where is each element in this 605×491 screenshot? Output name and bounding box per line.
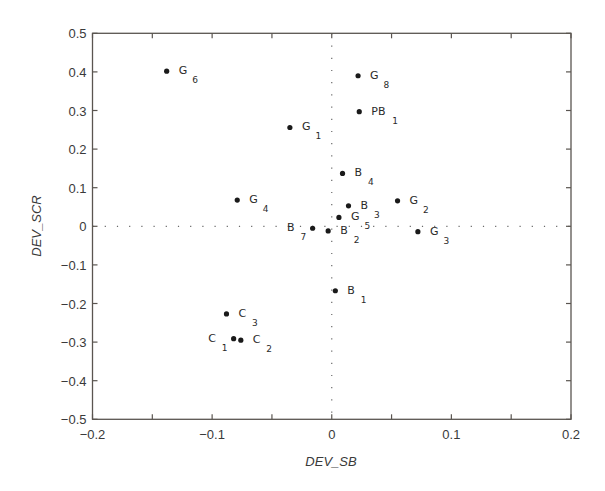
- point-marker: [164, 69, 169, 74]
- y-tick-label: −0.1: [61, 258, 87, 273]
- point-label-subscript: 6: [192, 75, 198, 85]
- y-tick-label: −0.3: [61, 335, 87, 350]
- point-marker: [238, 338, 243, 343]
- point-label-subscript: 4: [263, 204, 269, 214]
- point-marker: [224, 311, 229, 316]
- point-label-subscript: 3: [443, 236, 449, 246]
- point-label-subscript: 3: [374, 210, 380, 220]
- point-label-subscript: 1: [222, 343, 228, 353]
- point-label-subscript: 1: [315, 131, 321, 141]
- plot-frame: [93, 33, 572, 419]
- reference-lines: [93, 33, 572, 419]
- point-label: B: [347, 284, 355, 297]
- point-marker: [326, 228, 331, 233]
- y-tick-label: 0.2: [68, 142, 86, 157]
- point-label: C: [238, 307, 246, 320]
- y-tick-label: 0: [79, 219, 86, 234]
- point-marker: [235, 197, 240, 202]
- point-marker: [355, 73, 360, 78]
- data-point-g4: G4: [235, 193, 269, 214]
- scatter-chart: −0.2−0.100.10.2 0.50.40.30.20.10−0.1−0.2…: [0, 0, 605, 491]
- data-point-g2: G2: [395, 194, 429, 215]
- data-point-c3: C3: [224, 307, 258, 328]
- point-marker: [231, 336, 236, 341]
- point-marker: [395, 198, 400, 203]
- point-marker: [415, 229, 420, 234]
- point-label: PB: [371, 105, 385, 118]
- point-label-subscript: 2: [354, 235, 360, 245]
- point-label: G: [351, 210, 360, 223]
- point-label: G: [179, 64, 188, 77]
- point-label-subscript: 1: [392, 116, 398, 126]
- y-tick-label: −0.5: [61, 412, 87, 427]
- point-label-subscript: 7: [301, 232, 307, 242]
- point-label-subscript: 3: [252, 318, 258, 328]
- point-marker: [333, 288, 338, 293]
- x-axis-label: DEV_SB: [305, 454, 357, 469]
- point-marker: [357, 109, 362, 114]
- data-point-c2: C2: [238, 333, 272, 354]
- data-point-b7: B7: [287, 221, 315, 242]
- data-points: G6G8PB1G1B4G4G2B3G5B7B2G3B1C3C1C2: [164, 64, 449, 354]
- data-point-g1: G1: [287, 120, 321, 141]
- data-point-g8: G8: [355, 69, 389, 90]
- point-label: G: [302, 120, 311, 133]
- data-point-c1: C1: [208, 332, 236, 353]
- y-axis-ticks: 0.50.40.30.20.10−0.1−0.2−0.3−0.4−0.5: [61, 26, 571, 427]
- data-point-g3: G3: [415, 225, 449, 246]
- point-label: C: [208, 332, 216, 345]
- point-marker: [310, 226, 315, 231]
- point-label-subscript: 1: [361, 295, 367, 305]
- point-marker: [340, 171, 345, 176]
- x-tick-label: −0.2: [80, 427, 106, 442]
- point-label-subscript: 2: [266, 344, 272, 354]
- x-tick-label: 0: [328, 427, 335, 442]
- point-label-subscript: 5: [364, 221, 370, 231]
- point-label: B: [360, 199, 368, 212]
- point-label: C: [253, 333, 261, 346]
- point-marker: [287, 125, 292, 130]
- data-point-b1: B1: [333, 284, 367, 305]
- point-label-subscript: 4: [368, 177, 374, 187]
- y-tick-label: 0.4: [68, 65, 86, 80]
- point-marker: [336, 215, 341, 220]
- x-tick-label: −0.1: [199, 427, 225, 442]
- point-label: B: [287, 221, 295, 234]
- point-label-subscript: 8: [384, 80, 390, 90]
- data-point-b4: B4: [340, 166, 374, 187]
- x-axis-ticks: −0.2−0.100.10.2: [80, 33, 580, 442]
- data-point-g6: G6: [164, 64, 198, 85]
- y-tick-label: 0.5: [68, 26, 86, 41]
- data-point-b2: B2: [326, 224, 360, 245]
- x-tick-label: 0.2: [562, 427, 580, 442]
- y-tick-label: −0.4: [61, 374, 87, 389]
- point-label: B: [340, 224, 348, 237]
- x-tick-label: 0.1: [442, 427, 460, 442]
- y-tick-label: 0.1: [68, 181, 86, 196]
- point-label-subscript: 2: [423, 205, 429, 215]
- y-tick-label: 0.3: [68, 104, 86, 119]
- point-label: B: [355, 166, 363, 179]
- point-label: G: [370, 69, 379, 82]
- point-label: G: [249, 193, 258, 206]
- point-label: G: [430, 225, 439, 238]
- y-axis-label: DEV_SCR: [29, 195, 44, 256]
- point-marker: [346, 203, 351, 208]
- point-label: G: [410, 194, 419, 207]
- data-point-pb1: PB1: [357, 105, 398, 126]
- y-tick-label: −0.2: [61, 297, 87, 312]
